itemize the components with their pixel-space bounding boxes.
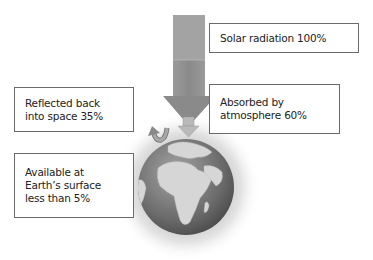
earth-globe-icon xyxy=(137,139,234,235)
absorbed-label: Absorbed by atmosphere 60% xyxy=(209,84,340,134)
reflected-label: Reflected back into space 35% xyxy=(14,87,134,132)
available-surface-label: Available at Earth’s surface less than 5… xyxy=(14,153,134,218)
solar-radiation-label: Solar radiation 100% xyxy=(209,23,359,53)
